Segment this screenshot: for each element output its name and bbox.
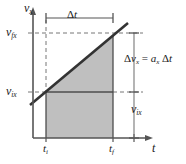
velocity-time-graph-figure: vx vfx vix vix t ti tf Δt Δvx = ax Δt [0, 0, 186, 164]
v-initial-right-label: vix [131, 103, 142, 116]
v-initial-left-label: vix [6, 85, 17, 98]
delta-v-equation-label: Δvx = ax Δt [124, 53, 172, 66]
x-axis-label: t [152, 142, 155, 154]
shaded-rectangle-area [46, 92, 113, 138]
y-axis-label: vx [24, 2, 33, 15]
delta-t-label: Δt [67, 9, 77, 20]
t-initial-label: ti [43, 143, 48, 156]
v-final-label: vfx [6, 26, 17, 39]
t-final-label: tf [109, 143, 114, 156]
graph-canvas [0, 0, 186, 164]
